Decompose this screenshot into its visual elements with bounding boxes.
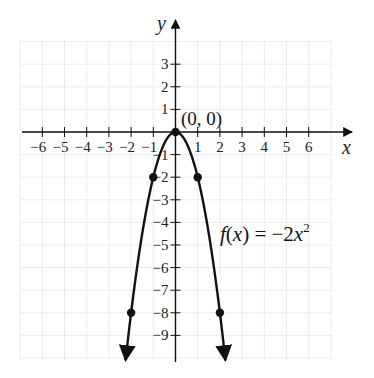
x-tick-label: 1	[194, 139, 202, 155]
chart-canvas: −6−5−4−3−2−1123456321−1−2−3−4−5−6−7−8−9 …	[0, 0, 374, 378]
y-tick-label: −9	[153, 327, 169, 343]
vertex-label: (0, 0)	[181, 108, 222, 130]
data-point	[171, 128, 179, 136]
data-point	[149, 173, 157, 181]
y-tick-label: −7	[153, 282, 169, 298]
x-tick-label: −4	[75, 139, 91, 155]
y-tick-label: 2	[161, 79, 169, 95]
y-tick-label: −8	[153, 305, 169, 321]
y-tick-label: −3	[153, 192, 169, 208]
x-tick-label: 4	[261, 139, 269, 155]
x-tick-label: 5	[283, 139, 291, 155]
x-tick-label: 3	[238, 139, 246, 155]
x-tick-label: −3	[97, 139, 113, 155]
axes	[22, 20, 352, 362]
data-point	[194, 173, 202, 181]
y-tick-label: 1	[161, 101, 169, 117]
data-point	[127, 309, 135, 317]
function-label: f(x) = −2x2	[220, 220, 310, 246]
y-tick-label: −5	[153, 237, 169, 253]
y-tick-label: −4	[153, 214, 169, 230]
y-tick-label: −6	[153, 260, 169, 276]
x-tick-label: 2	[216, 139, 224, 155]
x-tick-label: −5	[53, 139, 69, 155]
data-point	[216, 309, 224, 317]
x-tick-label: −6	[30, 139, 46, 155]
x-axis-label: x	[341, 136, 351, 158]
x-tick-label: −2	[119, 139, 135, 155]
x-tick-label: 6	[305, 139, 313, 155]
y-tick-label: 3	[161, 56, 169, 72]
y-axis-label: y	[155, 12, 166, 35]
